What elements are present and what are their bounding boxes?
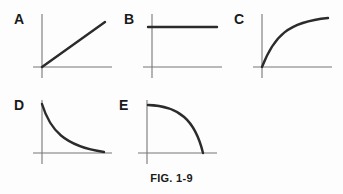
panel-e: E xyxy=(119,96,219,168)
plot-a xyxy=(32,10,114,82)
panel-label-b: B xyxy=(124,12,134,26)
curve-a xyxy=(42,22,105,67)
curve-c xyxy=(262,18,328,67)
panel-d: D xyxy=(14,96,114,168)
plot-b xyxy=(142,10,224,82)
panel-label-a: A xyxy=(14,12,24,26)
curve-d xyxy=(42,104,104,152)
panel-c: C xyxy=(234,10,334,82)
panel-label-d: D xyxy=(14,98,24,112)
panel-label-e: E xyxy=(119,98,128,112)
plot-c xyxy=(252,10,334,82)
panel-label-c: C xyxy=(234,12,244,26)
curve-e xyxy=(148,105,203,153)
figure-container: A B C D E xyxy=(0,0,343,194)
panel-b: B xyxy=(124,10,224,82)
plot-e xyxy=(137,96,219,168)
panel-a: A xyxy=(14,10,114,82)
figure-caption: FIG. 1-9 xyxy=(0,172,343,184)
plot-d xyxy=(32,96,114,168)
